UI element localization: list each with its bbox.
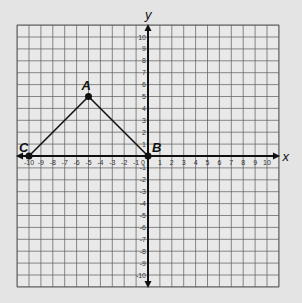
point-label-C: C bbox=[19, 140, 29, 155]
x-tick-label: -3 bbox=[109, 159, 115, 166]
y-tick-label: 9 bbox=[142, 45, 146, 52]
point-label-A: A bbox=[81, 78, 91, 93]
x-axis-label: x bbox=[281, 149, 289, 164]
y-tick-label: 2 bbox=[142, 129, 146, 136]
x-tick-label: 9 bbox=[253, 159, 257, 166]
y-tick-label: -4 bbox=[140, 200, 146, 207]
y-tick-label: 7 bbox=[142, 69, 146, 76]
y-tick-label: -7 bbox=[140, 236, 146, 243]
x-tick-label: -6 bbox=[73, 159, 79, 166]
y-tick-label: -9 bbox=[140, 260, 146, 267]
y-tick-label: 6 bbox=[142, 81, 146, 88]
y-tick-label: 10 bbox=[138, 34, 146, 41]
x-tick-label: -4 bbox=[97, 159, 103, 166]
y-axis-label: y bbox=[144, 7, 153, 22]
x-tick-label: -9 bbox=[38, 159, 44, 166]
x-tick-label: 6 bbox=[217, 159, 221, 166]
y-tick-label: -3 bbox=[140, 188, 146, 195]
x-tick-label: -2 bbox=[121, 159, 127, 166]
point-B bbox=[145, 153, 152, 160]
x-tick-label: -1 bbox=[133, 159, 139, 166]
y-tick-label: -1 bbox=[140, 164, 146, 171]
x-tick-label: 7 bbox=[229, 159, 233, 166]
x-tick-label: 5 bbox=[206, 159, 210, 166]
x-tick-label: 10 bbox=[263, 159, 271, 166]
point-A bbox=[85, 93, 92, 100]
point-label-B: B bbox=[152, 140, 161, 155]
y-tick-label: -8 bbox=[140, 248, 146, 255]
y-tick-label: -10 bbox=[136, 272, 146, 279]
x-tick-label: 3 bbox=[182, 159, 186, 166]
y-tick-label: 3 bbox=[142, 117, 146, 124]
x-tick-label: -5 bbox=[85, 159, 91, 166]
x-tick-label: 1 bbox=[158, 159, 162, 166]
x-tick-label: 4 bbox=[194, 159, 198, 166]
y-tick-label: 1 bbox=[142, 141, 146, 148]
y-tick-label: -2 bbox=[140, 176, 146, 183]
x-tick-label: 2 bbox=[170, 159, 174, 166]
y-tick-label: 8 bbox=[142, 57, 146, 64]
x-tick-label: -7 bbox=[62, 159, 68, 166]
y-tick-label: -5 bbox=[140, 212, 146, 219]
x-tick-label: 8 bbox=[241, 159, 245, 166]
y-tick-label: -6 bbox=[140, 224, 146, 231]
x-tick-label: -8 bbox=[50, 159, 56, 166]
y-tick-label: 4 bbox=[142, 105, 146, 112]
x-tick-label: -10 bbox=[24, 159, 34, 166]
coordinate-plane: -10-9-8-7-6-5-4-3-2-10123456789101098765… bbox=[0, 0, 302, 303]
y-tick-label: 5 bbox=[142, 93, 146, 100]
